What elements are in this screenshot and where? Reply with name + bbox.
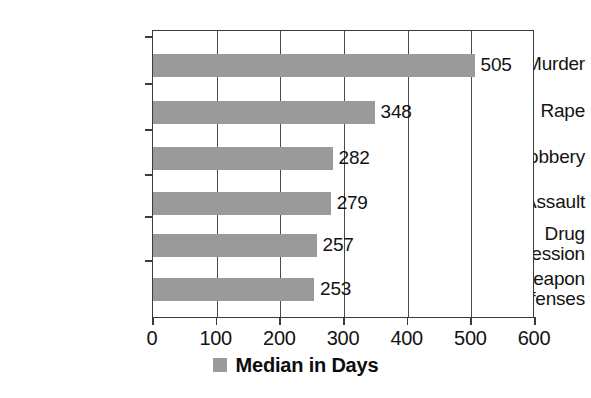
bar-value-label: 253: [320, 279, 351, 298]
y-axis-tick: [145, 260, 152, 262]
bar: [153, 278, 314, 301]
x-axis-tick: [470, 317, 472, 325]
x-axis-tick: [343, 317, 345, 325]
x-axis-tick-label: 100: [199, 328, 231, 348]
x-axis-tick: [407, 317, 409, 325]
x-axis-tick-label: 0: [147, 328, 158, 348]
y-axis-tick: [145, 83, 152, 85]
plot-area: [152, 30, 534, 318]
bar: [153, 192, 331, 215]
bar-row: [153, 54, 535, 77]
x-axis-tick-label: 500: [454, 328, 486, 348]
bar: [153, 234, 317, 257]
x-axis-tick: [534, 317, 536, 325]
x-axis-tick-label: 200: [263, 328, 295, 348]
x-axis-tick-label: 600: [518, 328, 550, 348]
x-axis-tick-label: 400: [390, 328, 422, 348]
bar-value-label: 282: [339, 148, 370, 167]
bar-chart: MurderRapeRobberyAssaultDrugPossessionWe…: [0, 0, 591, 398]
y-axis-tick: [145, 129, 152, 131]
bar: [153, 54, 475, 77]
bar-value-label: 348: [381, 102, 412, 121]
legend-color-swatch: [213, 358, 227, 372]
bar-row: [153, 101, 535, 124]
y-axis-tick: [145, 216, 152, 218]
x-axis-tick: [216, 317, 218, 325]
y-axis-tick: [145, 36, 152, 38]
bar-value-label: 505: [481, 55, 512, 74]
x-axis-tick: [279, 317, 281, 325]
bar: [153, 101, 375, 124]
legend: Median in Days: [0, 355, 591, 375]
bar-value-label: 257: [323, 235, 354, 254]
bar-value-label: 279: [337, 193, 368, 212]
x-axis-tick: [152, 317, 154, 325]
legend-label: Median in Days: [236, 355, 379, 375]
bar: [153, 147, 333, 170]
y-axis-tick: [145, 174, 152, 176]
x-axis-tick-label: 300: [327, 328, 359, 348]
